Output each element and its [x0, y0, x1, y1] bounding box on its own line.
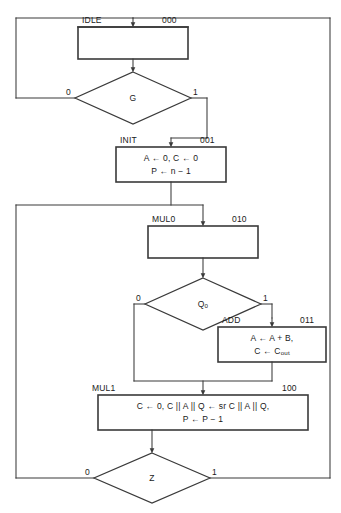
state-box-mul0 — [148, 226, 258, 258]
state-body-line: P ← n − 1 — [117, 165, 225, 178]
state-name-init: INIT — [120, 135, 137, 146]
branch-label-g-true: 1 — [193, 87, 198, 98]
branch-label-z-true: 1 — [212, 467, 217, 478]
decision-condition-q0: Q0 — [198, 299, 208, 310]
cout-subscript: out — [281, 349, 290, 356]
state-body-init: A ← 0, C ← 0 P ← n − 1 — [117, 152, 225, 178]
state-body-line: A ← 0, C ← 0 — [117, 152, 225, 165]
decision-condition-q0-subscript: 0 — [205, 302, 209, 309]
state-code-add: 011 — [300, 315, 314, 326]
state-body-add: A ← A + B, C ← Cout — [219, 332, 325, 358]
state-code-idle: 000 — [162, 15, 177, 26]
asm-chart-lines — [0, 0, 341, 513]
state-name-add: ADD — [222, 315, 241, 326]
branch-label-q0-false: 0 — [136, 293, 141, 304]
state-body-line: P ← P − 1 — [99, 413, 307, 426]
state-body-line: A ← A + B, — [219, 332, 325, 345]
decision-condition-z: Z — [149, 473, 154, 484]
state-body-mul1: C ← 0, C || A || Q ← sr C || A || Q, P ←… — [99, 400, 307, 426]
branch-label-g-false: 0 — [66, 87, 71, 98]
state-name-idle: IDLE — [82, 15, 102, 26]
state-name-mul1: MUL1 — [92, 383, 115, 394]
branch-label-q0-true: 1 — [263, 293, 268, 304]
state-box-idle — [78, 27, 188, 59]
state-body-line: C ← 0, C || A || Q ← sr C || A || Q, — [99, 400, 307, 413]
decision-condition-g: G — [130, 93, 137, 104]
state-name-mul0: MUL0 — [152, 214, 175, 225]
state-code-mul1: 100 — [282, 383, 297, 394]
asm-chart-canvas: IDLE 000 G 0 1 INIT 001 A ← 0, C ← 0 P ←… — [0, 0, 341, 513]
state-body-line: C ← Cout — [219, 345, 325, 358]
branch-label-z-false: 0 — [85, 467, 90, 478]
state-code-mul0: 010 — [232, 214, 247, 225]
state-code-init: 001 — [200, 135, 215, 146]
